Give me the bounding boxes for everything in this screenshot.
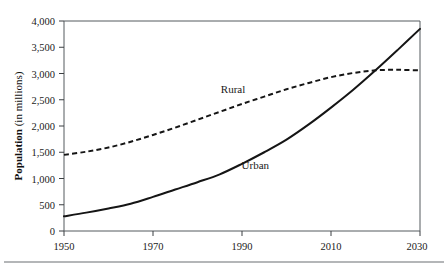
x-axis-tick-labels: 1950 1970 1990 2010 2030 bbox=[54, 241, 428, 252]
x-tick-label-2030: 2030 bbox=[407, 241, 428, 252]
population-line-chart: 4,000 3,500 3,000 2,500 2,000 1,500 1,00… bbox=[0, 0, 448, 270]
x-tick-label-1970: 1970 bbox=[143, 241, 164, 252]
y-tick-label-500: 500 bbox=[39, 200, 55, 211]
y-tick-label-3500: 3,500 bbox=[31, 42, 55, 53]
y-tick-label-1000: 1,000 bbox=[31, 174, 55, 185]
y-tick-label-0: 0 bbox=[50, 226, 55, 237]
y-tick-label-2500: 2,500 bbox=[31, 95, 55, 106]
y-tick-label-3000: 3,000 bbox=[31, 69, 55, 80]
y-tick-label-1500: 1,500 bbox=[31, 147, 55, 158]
x-axis-ticks bbox=[64, 231, 420, 236]
series-label-rural: Rural bbox=[221, 83, 245, 95]
y-axis-tick-labels: 4,000 3,500 3,000 2,500 2,000 1,500 1,00… bbox=[31, 16, 55, 237]
y-axis-ticks bbox=[59, 21, 64, 231]
x-tick-label-2010: 2010 bbox=[321, 241, 342, 252]
chart-svg: 4,000 3,500 3,000 2,500 2,000 1,500 1,00… bbox=[0, 0, 448, 270]
series-group bbox=[64, 29, 420, 216]
y-tick-label-4000: 4,000 bbox=[31, 16, 55, 27]
y-axis-title-normal: (in millions) bbox=[12, 71, 25, 129]
plot-frame bbox=[64, 21, 420, 231]
y-axis-title-text: Population (in millions) bbox=[12, 71, 25, 180]
x-tick-label-1950: 1950 bbox=[54, 241, 75, 252]
series-line-urban bbox=[64, 29, 420, 216]
x-tick-label-1990: 1990 bbox=[232, 241, 253, 252]
y-axis-title-bold: Population bbox=[12, 129, 24, 180]
series-label-urban: Urban bbox=[242, 159, 270, 171]
y-tick-label-2000: 2,000 bbox=[31, 121, 55, 132]
y-axis-title: Population (in millions) bbox=[12, 71, 25, 180]
